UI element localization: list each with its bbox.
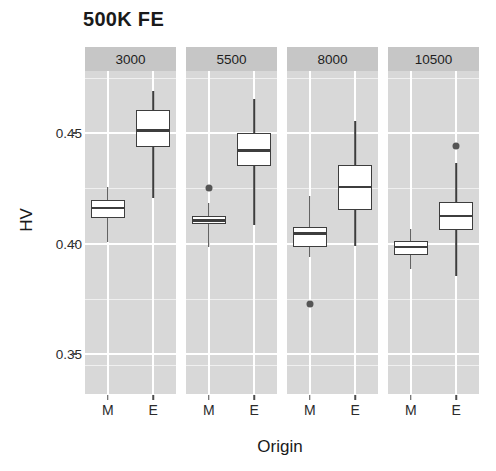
x-tick-label: M	[304, 402, 316, 418]
facet-strip-label: 10500	[388, 47, 479, 71]
whisker-lower	[354, 210, 356, 245]
whisker-upper	[152, 91, 154, 110]
x-tick-mark	[254, 395, 256, 400]
whisker-lower	[410, 255, 412, 269]
x-tick-mark	[208, 395, 210, 400]
median-line	[91, 207, 125, 210]
facet-strip-label: 8000	[287, 47, 378, 71]
panel-plot-area	[186, 71, 277, 394]
boxplot-m	[293, 71, 327, 394]
outlier-point	[205, 185, 212, 192]
whisker-upper	[455, 163, 457, 202]
median-line	[439, 215, 473, 218]
y-axis: 0.450.400.35	[22, 0, 82, 471]
median-line	[192, 219, 226, 222]
facet-panel: 8000	[287, 47, 378, 394]
y-tick-mark	[73, 353, 77, 355]
boxplot-m	[394, 71, 428, 394]
whisker-lower	[208, 224, 210, 247]
boxplot-e	[237, 71, 271, 394]
x-tick-mark	[456, 395, 458, 400]
whisker-lower	[107, 218, 109, 242]
x-tick-label: M	[102, 402, 114, 418]
boxplot-m	[192, 71, 226, 394]
x-tick-mark	[355, 395, 357, 400]
x-tick-label: M	[405, 402, 417, 418]
facet-panel: 5500	[186, 47, 277, 394]
x-tick-mark	[107, 395, 109, 400]
x-tick-mark	[153, 395, 155, 400]
boxplot-e	[338, 71, 372, 394]
median-line	[394, 246, 428, 249]
panel-plot-area	[85, 71, 176, 394]
facet-strip-label: 5500	[186, 47, 277, 71]
boxplot-e	[136, 71, 170, 394]
whisker-upper	[208, 203, 210, 216]
x-tick-label: E	[149, 402, 158, 418]
median-line	[293, 232, 327, 235]
panel-plot-area	[388, 71, 479, 394]
boxplot-chart: 500K FE HV 0.450.400.35 3000550080001050…	[0, 0, 496, 471]
boxplot-m	[91, 71, 125, 394]
y-tick-mark	[73, 132, 77, 134]
panel-plot-area	[287, 71, 378, 394]
chart-title: 500K FE	[83, 8, 164, 31]
facet-panel: 3000	[85, 47, 176, 394]
median-line	[237, 149, 271, 152]
outlier-point	[306, 301, 313, 308]
x-tick-label: E	[351, 402, 360, 418]
whisker-upper	[354, 121, 356, 165]
x-axis-title: Origin	[85, 437, 475, 457]
whisker-upper	[410, 229, 412, 241]
whisker-upper	[309, 196, 311, 227]
whisker-lower	[455, 230, 457, 275]
whisker-upper	[107, 187, 109, 200]
page-artifact-text	[40, 452, 44, 469]
outlier-point	[453, 143, 460, 150]
facet-panel: 10500	[388, 47, 479, 394]
x-tick-label: E	[452, 402, 461, 418]
x-tick-mark	[410, 395, 412, 400]
whisker-lower	[253, 166, 255, 225]
whisker-lower	[152, 147, 154, 198]
x-tick-mark	[309, 395, 311, 400]
whisker-lower	[309, 247, 311, 257]
y-tick-mark	[73, 243, 77, 245]
box-iqr	[293, 227, 327, 247]
x-tick-label: M	[203, 402, 215, 418]
boxplot-e	[439, 71, 473, 394]
median-line	[338, 186, 372, 189]
median-line	[136, 129, 170, 132]
x-tick-label: E	[250, 402, 259, 418]
whisker-upper	[253, 99, 255, 133]
facet-strip-label: 3000	[85, 47, 176, 71]
